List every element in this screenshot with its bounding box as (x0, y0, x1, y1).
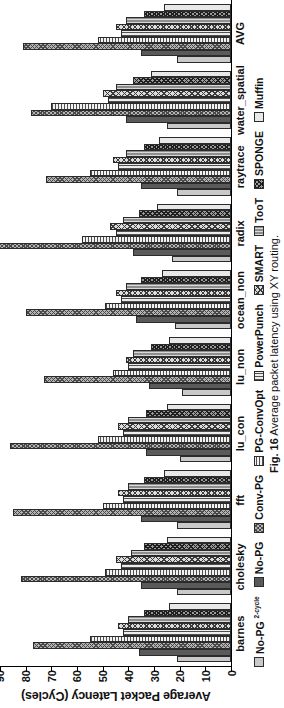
bar-raytrace-conv-pg (46, 176, 231, 183)
bar-ocean_non-toot (126, 283, 231, 290)
bar-cholesky-smart (116, 556, 232, 563)
legend-label: Muffin (253, 77, 265, 109)
bar-ocean_non-smart (116, 290, 232, 297)
bar-water_spatial-no-pg (126, 116, 231, 123)
bar-cholesky-powerpunch (121, 563, 231, 570)
y-tick-label: 10 (200, 670, 212, 682)
x-label-avg: AVG (234, 22, 246, 45)
bar-barnes-muffin (169, 603, 231, 610)
bar-cholesky-toot (131, 550, 231, 557)
legend-swatch-icon (254, 112, 264, 122)
x-label-fft: fft (234, 495, 246, 506)
legend-item-toot[interactable]: TooT (253, 198, 265, 236)
legend-label: PG-ConvOpt (253, 390, 265, 453)
y-axis-title-text: Average Packet Latency (Cycles) (21, 689, 210, 703)
legend-swatch-icon (254, 657, 264, 667)
x-label-barnes: barnes (234, 616, 246, 652)
bar-group-radix (0, 204, 231, 263)
bar-avg-muffin (164, 4, 231, 11)
bar-cholesky-no-pg-2-cycle (177, 589, 231, 596)
bar-lu_con-no-pg-2-cycle (180, 456, 231, 463)
bar-ocean_non-pg-convopt (105, 303, 231, 310)
y-tick-mark (154, 666, 155, 671)
bar-ocean_non-conv-pg (26, 310, 231, 317)
y-tick-label: 80 (20, 670, 32, 682)
legend-label: PowerPunch (253, 304, 265, 368)
bar-ocean_non-sponge (141, 277, 231, 284)
bar-avg-pg-convopt (98, 37, 231, 44)
x-label-lu_non: lu_non (234, 349, 246, 385)
bar-ocean_non-powerpunch (121, 296, 231, 303)
legend-item-smart[interactable]: SMART (253, 245, 265, 295)
bar-raytrace-smart (113, 157, 231, 164)
bars-container (0, 0, 231, 666)
legend-item-muffin[interactable]: Muffin (253, 77, 265, 122)
legend-item-no-pg[interactable]: No-PG 2-cycle (253, 596, 266, 667)
legend-label: TooT (253, 198, 265, 223)
x-label-lu_con: lu_con (234, 416, 246, 451)
bar-lu_con-sponge (146, 410, 231, 417)
bar-cholesky-no-pg (141, 582, 231, 589)
bar-lu_non-no-pg-2-cycle (182, 389, 231, 396)
legend-label: SMART (253, 245, 265, 282)
bar-lu_non-muffin (169, 337, 231, 344)
bar-lu_non-conv-pg (44, 376, 231, 383)
legend-item-pg-convopt[interactable]: PG-ConvOpt (253, 390, 265, 466)
y-tick-label: 30 (149, 670, 161, 682)
bar-barnes-no-pg-2-cycle (177, 656, 231, 663)
bar-fft-no-pg (141, 516, 231, 523)
bar-fft-sponge (144, 477, 231, 484)
bar-lu_con-toot (128, 417, 231, 424)
bar-radix-toot (123, 217, 231, 224)
y-tick-label: 50 (97, 670, 109, 682)
x-label-raytrace: raytrace (234, 145, 246, 188)
bar-avg-toot (126, 17, 231, 24)
y-tick-mark (51, 666, 52, 671)
bar-lu_con-smart (118, 423, 231, 430)
bar-lu_non-toot (133, 350, 231, 357)
bar-barnes-pg-convopt (90, 636, 231, 643)
bar-avg-smart (116, 24, 232, 31)
legend-swatch-icon (254, 456, 264, 466)
bar-lu_non-sponge (151, 344, 231, 351)
bar-water_spatial-smart (103, 90, 231, 97)
bar-avg-powerpunch (121, 30, 231, 37)
bar-group-fft (0, 470, 231, 529)
bar-lu_con-pg-convopt (98, 436, 231, 443)
bar-barnes-no-pg (139, 649, 231, 656)
bar-radix-smart (110, 223, 231, 230)
bar-group-water_spatial (0, 71, 231, 130)
bar-avg-no-pg-2-cycle (177, 56, 231, 63)
y-tick-label: 60 (71, 670, 83, 682)
bar-group-barnes (0, 603, 231, 662)
x-label-water_spatial: water_spatial (234, 65, 246, 135)
y-tick-mark (0, 666, 1, 671)
bar-water_spatial-no-pg-2-cycle (167, 123, 231, 130)
legend-item-conv-pg[interactable]: Conv-PG (253, 475, 265, 533)
bar-group-raytrace (0, 137, 231, 196)
bar-group-lu_con (0, 404, 231, 463)
bar-fft-toot (128, 483, 231, 490)
legend-swatch-icon (254, 523, 264, 533)
bar-radix-conv-pg (0, 243, 231, 250)
rotated-figure-frame: Average Packet Latency (Cycles) 01020304… (0, 0, 284, 708)
caption-label: Fig. 16 (268, 438, 280, 473)
bar-water_spatial-sponge (133, 77, 231, 84)
bar-group-lu_non (0, 337, 231, 396)
bar-cholesky-muffin (167, 537, 231, 544)
legend-item-no-pg[interactable]: No-PG (253, 542, 265, 588)
bar-cholesky-pg-convopt (105, 569, 231, 576)
chart-legend: No-PG 2-cycleNo-PGConv-PGPG-ConvOptPower… (250, 0, 268, 667)
bar-avg-sponge (144, 11, 231, 18)
bar-cholesky-sponge (144, 543, 231, 550)
bar-ocean_non-muffin (162, 270, 231, 277)
legend-label: No-PG 2-cycle (253, 596, 266, 654)
figure-caption: Fig. 16 Average packet latency using XY … (268, 0, 280, 708)
bar-lu_con-no-pg (146, 449, 231, 456)
x-axis-category-labels: barnescholeskyfftlu_conlu_nonocean_nonra… (233, 0, 250, 667)
legend-item-sponge[interactable]: SPONGE (253, 131, 265, 189)
bar-group-avg (0, 4, 231, 63)
bar-ocean_non-no-pg-2-cycle (175, 323, 231, 330)
legend-item-powerpunch[interactable]: PowerPunch (253, 304, 265, 381)
caption-text: Average packet latency using XY routing. (268, 235, 280, 436)
